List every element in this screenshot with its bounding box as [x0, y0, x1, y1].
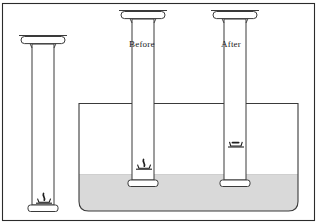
figure-canvas: Before After — [0, 0, 318, 224]
tank-sediment-fill — [79, 174, 299, 212]
column-before-base — [128, 180, 158, 187]
column-left-capital — [21, 37, 65, 44]
column-left-shaft — [32, 44, 54, 205]
column-settlement-diagram — [0, 0, 318, 224]
column-before-capital — [121, 12, 165, 19]
label-after: After — [221, 39, 241, 49]
column-after-base — [220, 180, 250, 187]
column-left-base — [28, 205, 58, 212]
label-before: Before — [129, 39, 155, 49]
column-after-capital — [213, 12, 257, 19]
